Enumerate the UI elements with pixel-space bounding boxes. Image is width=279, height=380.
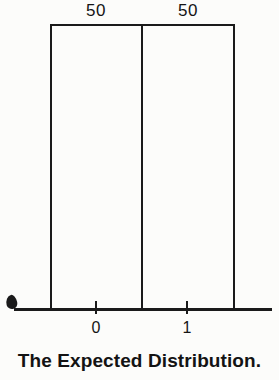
- x-axis-tick-label-0: 0: [81, 318, 111, 338]
- bar-1: [141, 24, 235, 310]
- bar-value-label-1: 50: [165, 1, 211, 21]
- plot-area: 50 50 0 1: [0, 0, 279, 345]
- x-axis-tick-0: [95, 301, 97, 314]
- bar-value-label-0: 50: [73, 1, 119, 21]
- x-axis-tick-1: [186, 301, 188, 314]
- bar-0: [50, 24, 143, 310]
- x-axis-tick-label-1: 1: [172, 318, 202, 338]
- figure-caption: The Expected Distribution.: [0, 350, 279, 372]
- figure: 50 50 0 1 The Expected Distribution.: [0, 0, 279, 380]
- x-axis-line: [14, 308, 272, 311]
